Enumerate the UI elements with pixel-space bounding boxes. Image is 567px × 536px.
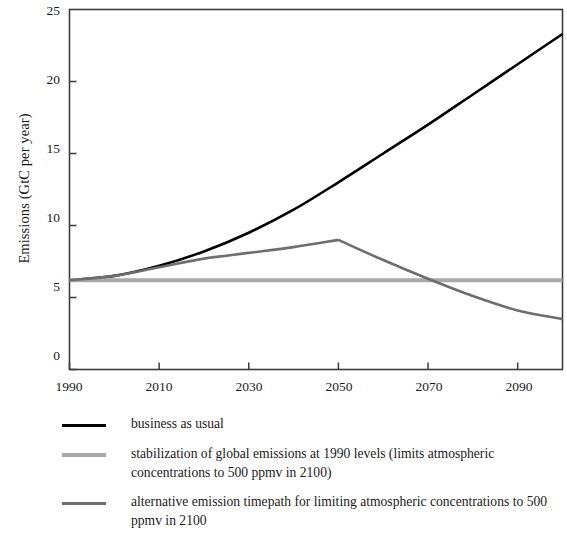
legend-swatch-alternative-timepath — [62, 502, 106, 505]
legend-label-business-as-usual: business as usual — [131, 415, 551, 434]
legend-item-stabilization: stabilization of global emissions at 199… — [0, 445, 567, 483]
legend-label-stabilization: stabilization of global emissions at 199… — [131, 445, 551, 483]
plot-area — [0, 0, 567, 400]
plot-frame — [70, 10, 563, 370]
x-axis-ticks — [70, 363, 518, 370]
legend-item-alternative-timepath: alternative emission timepath for limiti… — [0, 493, 567, 531]
legend-swatch-business-as-usual — [62, 424, 106, 427]
emissions-line-chart: Emissions (GtC per year) 25 20 15 10 5 0… — [0, 0, 567, 536]
legend-swatch-stabilization — [62, 453, 106, 457]
data-series-layer — [70, 34, 563, 319]
y-axis-ticks — [70, 82, 77, 370]
legend-item-business-as-usual: business as usual — [0, 415, 567, 434]
legend-label-alternative-timepath: alternative emission timepath for limiti… — [131, 493, 551, 531]
chart-legend: business as usual stabilization of globa… — [0, 415, 567, 536]
